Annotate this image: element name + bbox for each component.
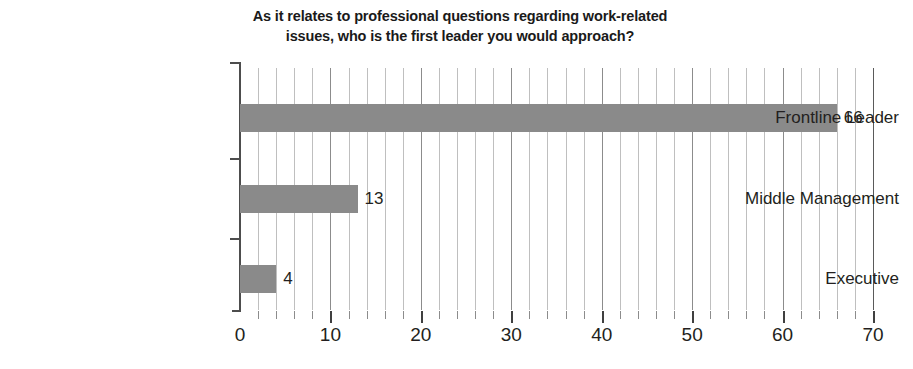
value-label-middle-management: 13	[365, 185, 384, 213]
x-tick-18	[403, 311, 404, 319]
x-tick-16	[385, 311, 386, 319]
x-tick-24	[457, 311, 458, 319]
y-axis-top-tick	[230, 62, 240, 64]
x-tick-26	[475, 311, 476, 319]
x-tick-52	[710, 311, 711, 319]
x-axis-label-60: 60	[772, 324, 793, 346]
bar-executive[interactable]	[240, 265, 276, 293]
x-tick-62	[801, 311, 802, 319]
x-tick-10	[330, 311, 332, 323]
value-label-executive: 4	[283, 265, 292, 293]
x-tick-2	[258, 311, 259, 319]
x-axis-label-10: 10	[320, 324, 341, 346]
x-axis-label-70: 70	[862, 324, 883, 346]
x-tick-34	[547, 311, 548, 319]
x-tick-64	[819, 311, 820, 319]
x-tick-32	[529, 311, 530, 319]
bar-chart: 66Frontline Leader13Middle Management4Ex…	[0, 0, 913, 369]
x-tick-50	[692, 311, 694, 323]
x-axis-label-40: 40	[591, 324, 612, 346]
category-separator-tick-2	[230, 238, 240, 240]
x-tick-30	[511, 311, 513, 323]
x-axis-label-0: 0	[235, 324, 246, 346]
x-tick-8	[312, 311, 313, 319]
x-tick-6	[294, 311, 295, 319]
x-tick-70	[873, 311, 875, 323]
bar-middle-management[interactable]	[240, 185, 358, 213]
x-tick-12	[349, 311, 350, 319]
x-tick-66	[837, 311, 838, 319]
category-label-executive: Executive	[689, 265, 913, 293]
x-tick-28	[493, 311, 494, 319]
x-tick-46	[656, 311, 657, 319]
x-axis-label-20: 20	[410, 324, 431, 346]
x-tick-68	[855, 311, 856, 319]
x-tick-58	[764, 311, 765, 319]
x-tick-4	[276, 311, 277, 319]
x-axis-origin-foot	[232, 310, 241, 312]
category-label-frontline-leader: Frontline Leader	[689, 104, 913, 132]
x-axis-label-30: 30	[501, 324, 522, 346]
x-tick-22	[439, 311, 440, 319]
x-tick-42	[620, 311, 621, 319]
x-tick-36	[566, 311, 567, 319]
x-tick-44	[638, 311, 639, 319]
x-tick-40	[602, 311, 604, 323]
x-tick-14	[367, 311, 368, 319]
category-separator-tick-1	[230, 158, 240, 160]
x-tick-38	[584, 311, 585, 319]
x-axis-label-50: 50	[682, 324, 703, 346]
x-tick-20	[421, 311, 423, 323]
x-tick-56	[746, 311, 747, 319]
x-tick-54	[728, 311, 729, 319]
x-tick-60	[783, 311, 785, 323]
x-tick-48	[674, 311, 675, 319]
category-label-middle-management: Middle Management	[689, 185, 913, 213]
